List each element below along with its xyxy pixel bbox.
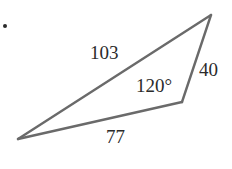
side-length-label-103: 103 xyxy=(90,43,119,62)
side-length-label-77: 77 xyxy=(106,127,125,146)
angle-measure-label-120: 120° xyxy=(136,76,172,95)
triangle-figure: 103 40 120° 77 xyxy=(0,0,232,169)
side-length-label-40: 40 xyxy=(199,60,218,79)
triangle-edge-77 xyxy=(18,102,182,139)
triangle-edge-103 xyxy=(18,15,211,139)
triangle-outline xyxy=(18,15,211,139)
